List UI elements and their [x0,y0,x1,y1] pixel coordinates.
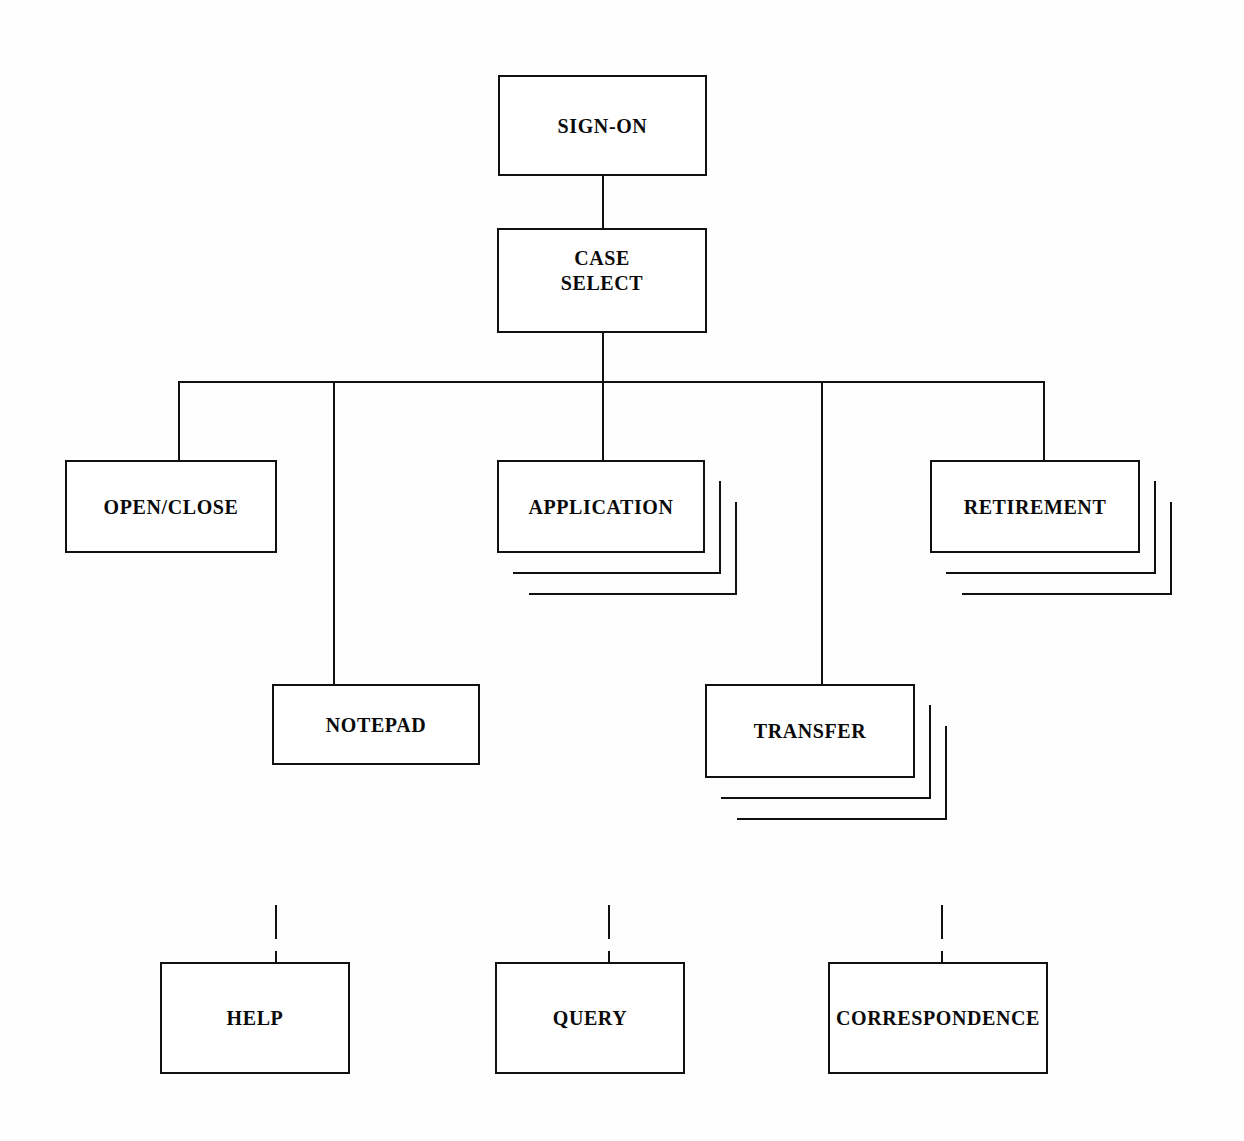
node-notepad[interactable]: NOTEPAD [272,684,480,765]
node-correspondence-label: CORRESPONDENCE [830,1006,1046,1031]
connector-bus-to-retirement [1043,381,1045,460]
node-application-label: APPLICATION [499,494,703,519]
connector-stub-help-upper [275,905,277,939]
node-query-label: QUERY [497,1006,683,1031]
connector-bus-to-application [602,381,604,460]
node-case-select-label-line2: SELECT [561,272,644,294]
node-retirement[interactable]: RETIREMENT [930,460,1140,553]
node-sign-on[interactable]: SIGN-ON [498,75,707,176]
node-case-select[interactable]: CASE SELECT [497,228,707,333]
connector-sign-on-to-case-select [602,176,604,228]
node-transfer-label: TRANSFER [707,719,913,744]
node-query[interactable]: QUERY [495,962,685,1074]
connector-stub-correspondence-upper [941,905,943,939]
connector-bus-to-open-close [178,381,180,460]
node-case-select-label-line1: CASE [574,247,630,269]
node-correspondence[interactable]: CORRESPONDENCE [828,962,1048,1074]
node-help-label: HELP [162,1006,348,1031]
connector-case-select-drop [602,333,604,382]
connector-stub-query-upper [608,905,610,939]
node-notepad-label: NOTEPAD [274,712,478,737]
node-help[interactable]: HELP [160,962,350,1074]
node-open-close-label: OPEN/CLOSE [67,494,275,519]
diagram-canvas: SIGN-ON CASE SELECT OPEN/CLOSE APPLICATI… [0,0,1244,1141]
connector-bus-to-transfer [821,381,823,684]
connector-horizontal-bus [178,381,1045,383]
node-application[interactable]: APPLICATION [497,460,705,553]
node-case-select-label: CASE SELECT [499,246,705,296]
node-retirement-label: RETIREMENT [932,494,1138,519]
node-transfer[interactable]: TRANSFER [705,684,915,778]
node-open-close[interactable]: OPEN/CLOSE [65,460,277,553]
connector-bus-to-notepad [333,381,335,684]
node-sign-on-label: SIGN-ON [500,113,705,138]
